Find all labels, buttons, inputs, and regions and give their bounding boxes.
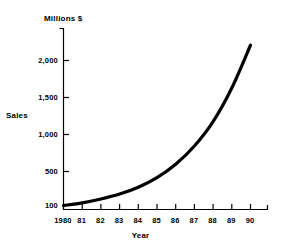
plot-area bbox=[0, 0, 281, 250]
y-tick-marks bbox=[64, 61, 70, 206]
chart-container: Millions $ Sales Year 2,000 1,500 1,000 … bbox=[0, 0, 281, 250]
sales-curve bbox=[64, 45, 251, 205]
